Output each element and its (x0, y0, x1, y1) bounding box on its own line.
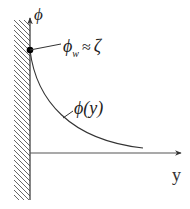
curve-label-leader (63, 111, 73, 118)
wall-label-leader (30, 44, 61, 50)
potential-decay-diagram: ϕ ϕw≈ζ ϕ(y) y (0, 0, 190, 209)
wall-hatching (14, 0, 30, 209)
diagram-canvas: ϕ ϕw≈ζ ϕ(y) y (0, 0, 190, 209)
horizontal-axis-label: y (172, 165, 181, 185)
curve-label: ϕ(y) (74, 98, 103, 119)
vertical-axis-label: ϕ (34, 5, 43, 24)
wall-value-label: ϕw≈ζ (63, 36, 103, 59)
